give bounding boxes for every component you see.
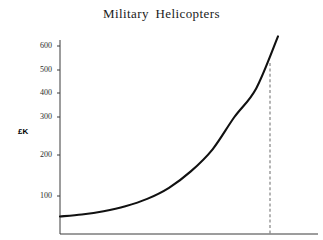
- y-tick-label: 600: [30, 41, 52, 50]
- chart-container: Military Helicopters £K 6005004003002001…: [0, 0, 323, 240]
- axes-group: [60, 40, 318, 234]
- y-tick-label: 200: [30, 150, 52, 159]
- y-tick-label: 300: [30, 112, 52, 121]
- y-tick-label: 500: [30, 65, 52, 74]
- y-tick-label: 400: [30, 88, 52, 97]
- series-line-cost: [60, 36, 278, 216]
- data-series-group: [60, 36, 278, 216]
- y-tick-label: 100: [30, 191, 52, 200]
